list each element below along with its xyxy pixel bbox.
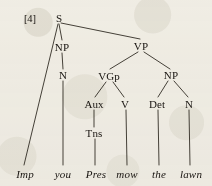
tree-leaf-mow: mow — [116, 169, 137, 180]
tree-node-s: S — [56, 13, 62, 24]
tree-edge-s-to-leaf-imp — [24, 24, 58, 165]
tree-edge-n2-to-leaf-lawn — [189, 110, 190, 165]
tree-edge-s-to-np1 — [59, 24, 62, 40]
tree-edge-det-to-leaf-the — [158, 110, 159, 165]
tree-edge-vgp-to-v — [113, 82, 124, 97]
tree-leaf-lawn: lawn — [180, 169, 202, 180]
tree-edge-np2-to-n2 — [174, 81, 188, 97]
tree-edge-vp-to-vgp — [110, 52, 138, 69]
tree-node-tns: Tns — [86, 128, 103, 139]
tree-node-vp: VP — [134, 41, 148, 52]
tree-edge-vp-to-np2 — [144, 52, 170, 69]
tree-node-n2: N — [185, 99, 193, 110]
tree-edge-np1-to-n1 — [62, 53, 63, 69]
figure-canvas: [4] SNPVPNVGpNPAuxVDetNTns ImpyouPresmow… — [0, 0, 212, 186]
tree-leaf-imp: Imp — [16, 169, 34, 180]
tree-node-np2: NP — [164, 70, 178, 81]
tree-edge-v-to-leaf-mow — [126, 110, 127, 165]
tree-leaf-you: you — [55, 169, 71, 180]
example-number-label: [4] — [24, 13, 36, 24]
tree-leaf-the: the — [152, 169, 166, 180]
tree-node-v: V — [121, 99, 129, 110]
tree-edge-np2-to-det — [158, 81, 168, 97]
tree-node-n1: N — [59, 70, 67, 81]
tree-node-np1: NP — [55, 42, 69, 53]
tree-leaf-pres: Pres — [86, 169, 107, 180]
tree-edge-vgp-to-aux — [95, 82, 106, 97]
tree-node-aux: Aux — [84, 99, 103, 110]
tree-node-vgp: VGp — [98, 71, 120, 82]
tree-node-det: Det — [149, 99, 165, 110]
tree-edge-s-to-vp — [61, 23, 140, 39]
syntax-tree-edges — [0, 0, 212, 186]
